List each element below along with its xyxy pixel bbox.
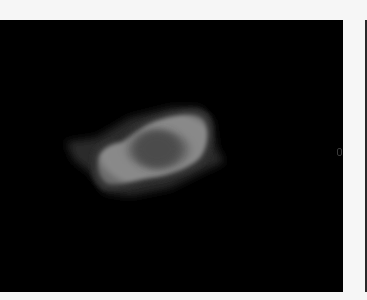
image-artifact	[337, 148, 342, 156]
image-panel	[0, 20, 343, 292]
image-frame	[0, 0, 367, 300]
blob-core	[135, 131, 179, 167]
blob-figure	[0, 20, 343, 292]
